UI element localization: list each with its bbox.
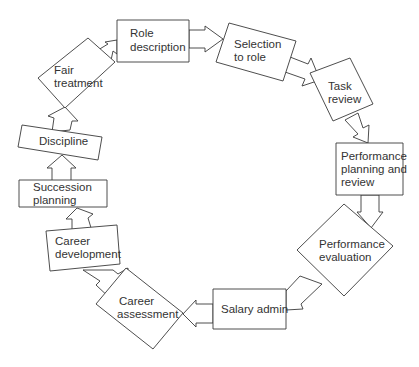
node-label: Fair [54,64,74,76]
node-label: planning [33,194,76,206]
arrow-task-to-perfplan [345,113,369,143]
node-succession-planning: Succession planning [19,180,107,207]
arrow-salary-to-careerassess [183,300,213,327]
arrow-role-to-selection [189,26,223,52]
node-label: Salary admin [221,303,288,315]
node-label: development [55,248,122,260]
node-role-description: Role description [117,20,189,62]
node-task-review: Task review [310,58,373,121]
arrow-perfeval-to-salary [286,276,322,310]
arrow-succession-to-discipline [47,155,76,181]
node-label: to role [234,51,266,63]
node-label: planning and [341,163,407,175]
node-label: Performance [341,150,407,162]
node-label: Selection [234,38,281,50]
node-label: review [341,176,375,188]
node-selection-to-role: Selection to role [216,23,296,81]
node-label: Succession [33,181,92,193]
node-label: Career [119,295,154,307]
node-label: Role [130,27,154,39]
node-performance-planning: Performance planning and review [336,143,407,195]
node-label: review [328,93,362,105]
node-label: Discipline [39,135,88,147]
node-label: treatment [54,77,103,89]
node-career-development: Career development [46,225,122,271]
node-discipline: Discipline [18,125,102,160]
arrow-discipline-to-fair [48,107,78,132]
node-label: Performance [319,238,385,250]
node-label: description [130,41,186,53]
node-label: assessment [117,308,179,320]
node-salary-admin: Salary admin [213,289,288,329]
node-label: Career [55,235,90,247]
node-label: evaluation [319,251,371,263]
hr-cycle-diagram: Role description Selection to role Task … [0,0,419,367]
node-label: Task [328,80,352,92]
